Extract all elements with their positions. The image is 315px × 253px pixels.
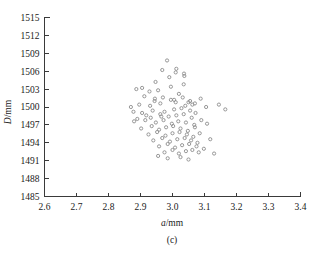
x-axis-tick-labels: 2.62.72.82.93.03.13.23.33.4 xyxy=(39,202,307,212)
data-point xyxy=(136,117,139,120)
data-points xyxy=(129,59,227,161)
y-axis-tick-labels: 1485148814911494149715001503150615091512… xyxy=(21,13,40,202)
svg-text:a/mm: a/mm xyxy=(161,218,184,228)
data-point xyxy=(181,144,184,147)
data-point xyxy=(161,68,164,71)
x-axis-title: a/mm xyxy=(161,218,184,228)
data-point xyxy=(140,127,143,130)
data-point xyxy=(149,116,152,119)
x-axis-tick-label: 2.7 xyxy=(71,202,83,212)
data-point xyxy=(141,111,144,114)
data-point xyxy=(129,105,132,108)
data-point xyxy=(178,130,181,133)
data-point xyxy=(147,133,150,136)
data-point xyxy=(179,156,182,159)
y-axis-tick-label: 1488 xyxy=(21,174,40,184)
data-point xyxy=(177,120,180,123)
data-point xyxy=(189,109,192,112)
data-point xyxy=(181,96,184,99)
data-point xyxy=(171,132,174,135)
data-point xyxy=(133,120,136,123)
data-point xyxy=(195,145,198,148)
axis-lines xyxy=(45,18,301,197)
data-point xyxy=(209,138,212,141)
x-axis-tick-label: 3.2 xyxy=(231,202,243,212)
data-point xyxy=(157,89,160,92)
data-point xyxy=(183,136,186,139)
axes xyxy=(45,18,301,197)
x-axis-title-unit: /mm xyxy=(166,218,184,228)
y-axis-title-unit: /mm xyxy=(3,99,13,117)
y-axis-tick-label: 1512 xyxy=(21,31,40,41)
data-point xyxy=(187,158,190,161)
data-point xyxy=(144,119,147,122)
data-point xyxy=(186,129,189,132)
y-axis-ticks xyxy=(45,18,49,197)
data-point xyxy=(151,109,154,112)
data-point xyxy=(152,139,155,142)
data-point xyxy=(184,121,187,124)
data-point xyxy=(167,115,170,118)
data-point xyxy=(202,147,205,150)
data-point xyxy=(165,59,168,62)
data-point xyxy=(156,130,159,133)
x-axis-ticks xyxy=(45,193,301,197)
data-point xyxy=(177,92,180,95)
data-point xyxy=(135,88,138,91)
data-point xyxy=(189,139,192,142)
y-axis-tick-label: 1485 xyxy=(21,192,40,202)
data-point xyxy=(213,152,216,155)
data-point xyxy=(192,135,195,138)
data-point xyxy=(154,121,157,124)
data-point xyxy=(177,152,180,155)
data-point xyxy=(182,113,185,116)
data-point xyxy=(169,85,172,88)
scatter-plot-figure: 1485148814911494149715001503150615091512… xyxy=(0,0,315,253)
data-point xyxy=(173,108,176,111)
x-axis-tick-label: 2.9 xyxy=(135,202,147,212)
data-point xyxy=(205,105,208,108)
data-point xyxy=(197,151,200,154)
data-point xyxy=(157,154,160,157)
plot-canvas: 1485148814911494149715001503150615091512… xyxy=(0,0,315,253)
x-axis-tick-label: 3.3 xyxy=(263,202,275,212)
data-point xyxy=(188,142,191,145)
y-axis-tick-label: 1500 xyxy=(21,102,40,112)
y-axis-title: D/mm xyxy=(3,99,13,125)
data-point xyxy=(154,80,157,83)
data-point xyxy=(132,110,135,113)
y-axis-tick-label: 1491 xyxy=(21,156,40,166)
data-point xyxy=(217,103,220,106)
data-point xyxy=(198,132,201,135)
data-point xyxy=(162,119,165,122)
data-point xyxy=(157,145,160,148)
x-axis-tick-label: 2.6 xyxy=(39,202,51,212)
y-axis-tick-label: 1509 xyxy=(21,49,40,59)
data-point xyxy=(180,107,183,110)
data-point xyxy=(171,148,174,151)
data-point xyxy=(205,122,208,125)
data-point xyxy=(165,126,168,129)
data-point xyxy=(184,150,187,153)
x-axis-tick-label: 3.4 xyxy=(295,202,307,212)
svg-text:D/mm: D/mm xyxy=(3,99,13,125)
data-point xyxy=(191,148,194,151)
y-axis-title-variable: D xyxy=(3,117,13,125)
data-point xyxy=(174,71,177,74)
data-point xyxy=(176,138,179,141)
figure-caption: (c) xyxy=(167,235,178,246)
data-point xyxy=(166,142,169,145)
y-axis-tick-label: 1494 xyxy=(21,138,40,148)
data-point xyxy=(194,111,197,114)
y-axis-tick-label: 1503 xyxy=(21,85,40,95)
data-point xyxy=(196,141,199,144)
data-point xyxy=(163,151,166,154)
data-point xyxy=(150,124,153,127)
data-point xyxy=(184,104,187,107)
data-point xyxy=(190,116,193,119)
y-axis-tick-label: 1515 xyxy=(21,13,40,23)
data-point xyxy=(169,98,172,101)
data-point xyxy=(168,76,171,79)
data-point xyxy=(200,119,203,122)
data-point xyxy=(163,110,166,113)
